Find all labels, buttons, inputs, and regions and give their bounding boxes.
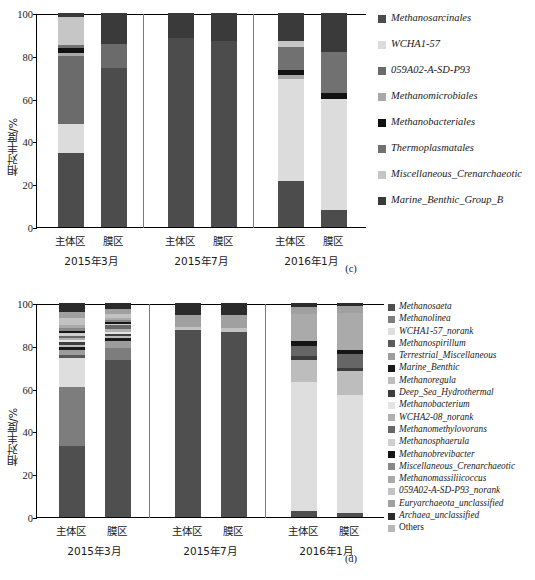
bar-segment[interactable] [105, 360, 131, 517]
bar-segment[interactable] [168, 38, 194, 227]
stacked-bar[interactable] [278, 13, 304, 227]
stacked-bar[interactable] [101, 13, 127, 227]
bar-segment[interactable] [59, 358, 85, 387]
legend-item[interactable]: Thermoplasmatales [378, 142, 522, 168]
bar-segment[interactable] [337, 513, 363, 517]
plot-area-d: 020406080100 [36, 304, 384, 518]
bar-segment[interactable] [59, 303, 85, 312]
bar-segment[interactable] [101, 68, 127, 227]
bar-segment[interactable] [168, 13, 194, 38]
bar-segment[interactable] [337, 313, 363, 350]
bar-segment[interactable] [101, 13, 127, 44]
bar-segment[interactable] [337, 371, 363, 395]
stacked-bar[interactable] [175, 303, 201, 517]
stacked-bar[interactable] [337, 303, 363, 517]
bar-segment[interactable] [101, 44, 127, 68]
bar-segment[interactable] [221, 315, 247, 328]
bar-segment[interactable] [278, 47, 304, 69]
bar-segment[interactable] [58, 56, 84, 124]
x-group-label: 2016年1月 [281, 543, 371, 558]
stacked-bar[interactable] [58, 13, 84, 227]
legend-swatch-icon [378, 171, 386, 179]
legend-item[interactable]: Methanosphaerula [388, 436, 515, 448]
bar-segment[interactable] [175, 303, 201, 315]
bar-segment[interactable] [59, 318, 85, 325]
legend-item[interactable]: Euryarchaeota_unclassified [388, 498, 515, 510]
bar-segment[interactable] [291, 382, 317, 510]
stacked-bar[interactable] [105, 303, 131, 517]
legend-swatch-icon [388, 390, 395, 397]
legend-item[interactable]: Others [388, 522, 515, 534]
legend-item[interactable]: Miscellaneous_Crenarchaeotic [388, 461, 515, 473]
bar-segment[interactable] [321, 99, 347, 210]
legend-label: Others [399, 522, 424, 533]
legend-item[interactable]: Methanosarcinales [378, 12, 522, 38]
stacked-bar[interactable] [321, 13, 347, 227]
stacked-bar[interactable] [221, 303, 247, 517]
legend-item[interactable]: Methanobacterium [388, 399, 515, 411]
stacked-bar[interactable] [59, 303, 85, 517]
y-tick-mark [33, 228, 37, 229]
legend-item[interactable]: Marine_Benthic_Group_B [378, 194, 522, 220]
bar-segment[interactable] [175, 330, 201, 517]
stacked-bar[interactable] [211, 13, 237, 227]
bar-segment[interactable] [291, 511, 317, 517]
plot-top-border-d [37, 304, 384, 305]
panel-d: 相对丰度/% 020406080100 MethanosaetaMethanol… [0, 290, 535, 580]
legend-label: Methanomicrobiales [391, 90, 478, 101]
legend-item[interactable]: Methanomethylovorans [388, 424, 515, 436]
bar-segment[interactable] [175, 315, 201, 327]
legend-item[interactable]: WCHA1-57_norank [388, 326, 515, 338]
legend-item[interactable]: WCHA1-57 [378, 38, 522, 64]
bar-segment[interactable] [278, 79, 304, 181]
bar-segment[interactable] [59, 446, 85, 517]
bar-segment[interactable] [211, 41, 237, 227]
x-category-label: 膜区 [205, 523, 261, 538]
legend-item[interactable]: Archaea_unclassified [388, 510, 515, 522]
bar-segment[interactable] [211, 13, 237, 41]
y-axis-label-d: 相对丰度/% [6, 368, 22, 466]
legend-label: Terrestrial_Miscellaneous [399, 350, 496, 361]
legend-label: Methanosphaerula [399, 436, 469, 447]
legend-item[interactable]: Methanospirillum [388, 338, 515, 350]
bar-segment[interactable] [278, 181, 304, 227]
legend-label: Methanobacteriales [391, 116, 475, 127]
bar-segment[interactable] [221, 303, 247, 315]
bar-segment[interactable] [278, 13, 304, 41]
stacked-bar[interactable] [168, 13, 194, 227]
legend-item[interactable]: Deep_Sea_Hydrothermal [388, 387, 515, 399]
legend-item[interactable]: 059A02-A-SD-P93_norank [388, 485, 515, 497]
legend-item[interactable]: Methanosaeta [388, 301, 515, 313]
bar-segment[interactable] [58, 17, 84, 45]
bar-segment[interactable] [321, 13, 347, 52]
bar-segment[interactable] [291, 314, 317, 342]
y-tick-mark [33, 100, 37, 101]
bar-segment[interactable] [321, 52, 347, 94]
bar-segment[interactable] [321, 210, 347, 227]
bar-segment[interactable] [59, 387, 85, 446]
legend-item[interactable]: Methanomassiliicoccus [388, 473, 515, 485]
legend-item[interactable]: Marine_Benthic [388, 362, 515, 374]
stacked-bar[interactable] [291, 303, 317, 517]
legend-swatch-icon [378, 93, 386, 101]
legend-item[interactable]: Methanobacteriales [378, 116, 522, 142]
bar-segment[interactable] [291, 360, 317, 382]
bar-segment[interactable] [105, 348, 131, 360]
legend-item[interactable]: Methanolinea [388, 313, 515, 325]
legend-item[interactable]: 059A02-A-SD-P93 [378, 64, 522, 90]
legend-label: Marine_Benthic_Group_B [391, 194, 503, 205]
legend-item[interactable]: WCHA2-08_norank [388, 412, 515, 424]
legend-swatch-icon [388, 525, 395, 532]
bar-segment[interactable] [337, 354, 363, 368]
bar-segment[interactable] [58, 153, 84, 227]
bar-segment[interactable] [337, 395, 363, 513]
legend-label: Methanobacterium [399, 399, 470, 410]
legend-item[interactable]: Miscellaneous_Crenarchaeotic [378, 168, 522, 194]
bar-segment[interactable] [291, 346, 317, 357]
bar-segment[interactable] [58, 124, 84, 153]
legend-item[interactable]: Terrestrial_Miscellaneous [388, 350, 515, 362]
legend-item[interactable]: Methanoregula [388, 375, 515, 387]
legend-item[interactable]: Methanomicrobiales [378, 90, 522, 116]
legend-item[interactable]: Methanobrevibacter [388, 449, 515, 461]
bar-segment[interactable] [221, 332, 247, 517]
